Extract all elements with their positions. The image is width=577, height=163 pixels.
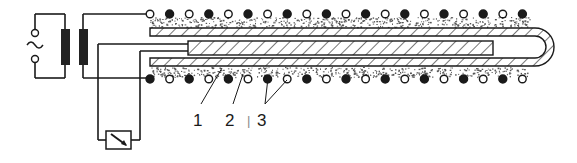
powder-speck [473, 24, 474, 25]
powder-speck [239, 25, 240, 26]
powder-speck [505, 67, 507, 68]
powder-speck [181, 24, 183, 25]
powder-speck [477, 25, 478, 26]
powder-speck [455, 21, 456, 22]
powder-speck [190, 22, 192, 23]
transformer [61, 14, 147, 78]
powder-speck [432, 76, 433, 78]
powder-speck [339, 76, 341, 77]
powder-speck [510, 70, 511, 71]
powder-speck [443, 24, 445, 25]
powder-speck [486, 70, 488, 71]
powder-speck [354, 77, 355, 78]
powder-speck [457, 25, 459, 26]
powder-speck [433, 19, 435, 20]
powder-speck [419, 69, 421, 70]
powder-speck [365, 19, 367, 20]
powder-speck [276, 71, 278, 72]
powder-speck [202, 20, 204, 21]
powder-speck [464, 24, 465, 25]
powder-speck [360, 68, 361, 69]
particle-open [460, 10, 468, 18]
powder-speck [220, 24, 221, 25]
powder-speck [527, 73, 528, 75]
powder-speck [153, 23, 155, 24]
powder-speck [338, 68, 339, 69]
ac-wave-icon [27, 42, 43, 48]
powder-speck [311, 21, 312, 22]
powder-speck [282, 69, 284, 70]
powder-speck [461, 21, 463, 22]
powder-speck [331, 74, 332, 75]
powder-speck [290, 24, 291, 25]
powder-speck [386, 22, 388, 23]
powder-speck [495, 73, 496, 74]
powder-speck [194, 70, 195, 71]
powder-speck [382, 69, 383, 70]
powder-speck [528, 17, 530, 18]
powder-speck [233, 73, 235, 74]
powder-speck [527, 76, 528, 77]
powder-speck [160, 74, 162, 75]
powder-speck [451, 17, 453, 18]
powder-speck [169, 72, 171, 73]
powder-speck [483, 25, 484, 26]
powder-speck [354, 74, 356, 75]
powder-speck [471, 75, 473, 76]
powder-speck [351, 20, 352, 21]
powder-speck [241, 22, 242, 23]
powder-speck [431, 70, 433, 72]
powder-speck [395, 72, 396, 73]
powder-speck [243, 76, 245, 77]
powder-speck [162, 19, 164, 20]
powder-speck [347, 72, 349, 73]
powder-speck [524, 69, 526, 70]
particle-open [440, 75, 448, 83]
powder-speck [488, 74, 490, 75]
powder-speck [451, 68, 452, 69]
powder-speck [488, 69, 489, 70]
powder-speck [381, 74, 382, 75]
powder-speck [522, 23, 523, 24]
powder-speck [214, 17, 216, 19]
powder-speck [399, 22, 401, 23]
powder-speck [175, 23, 176, 25]
powder-speck [402, 68, 404, 70]
powder-speck [297, 76, 299, 77]
powder-speck [405, 68, 406, 69]
powder-speck [241, 22, 243, 23]
powder-speck [201, 74, 202, 75]
powder-speck [178, 73, 179, 74]
particle-filled [479, 10, 487, 18]
powder-speck [277, 68, 278, 69]
powder-speck [309, 18, 310, 19]
powder-speck [273, 25, 275, 26]
powder-speck [150, 22, 151, 23]
stray-mark: | [247, 113, 250, 128]
secondary-coil [79, 29, 88, 65]
particle-filled [440, 10, 448, 18]
powder-speck [344, 19, 345, 20]
powder-speck [177, 71, 179, 72]
powder-speck [438, 24, 439, 25]
powder-speck [412, 76, 413, 77]
powder-speck [477, 77, 478, 78]
powder-speck [430, 72, 431, 73]
powder-speck [362, 69, 363, 70]
powder-speck [252, 68, 253, 69]
powder-speck [328, 72, 329, 73]
powder-speck [336, 20, 337, 21]
powder-speck [394, 18, 395, 19]
powder-speck [182, 67, 184, 68]
powder-speck [251, 70, 252, 71]
powder-speck [233, 74, 234, 75]
powder-speck [260, 23, 262, 24]
powder-speck [422, 71, 423, 72]
powder-speck [499, 71, 500, 72]
powder-speck [374, 21, 375, 22]
powder-speck [376, 71, 377, 72]
powder-speck [480, 21, 481, 22]
powder-speck [418, 17, 419, 18]
powder-speck [303, 23, 304, 24]
powder-speck [510, 20, 512, 21]
